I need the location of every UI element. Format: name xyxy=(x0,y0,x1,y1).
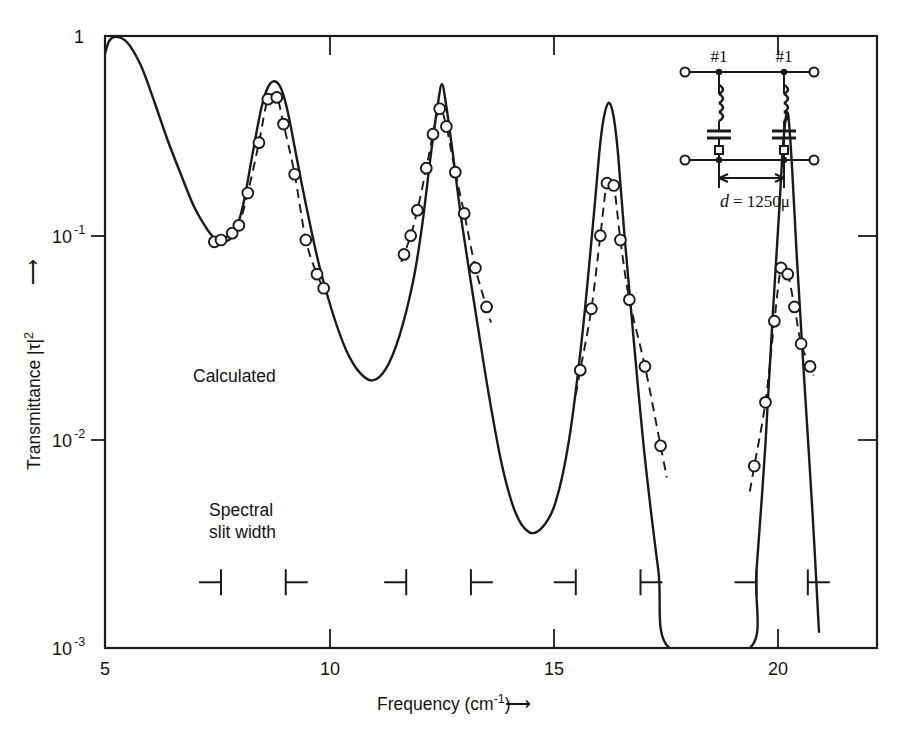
inset-label-right: #1 xyxy=(776,47,793,66)
chart-svg: 1 10 -1 10 -2 10 -3 5 10 15 20 Frequency… xyxy=(0,0,903,729)
inset-dimension-arrow-icon xyxy=(719,163,784,188)
data-point-marker xyxy=(242,188,253,199)
x-tick-label-2: 10 xyxy=(320,659,340,679)
x-tick-label-4: 20 xyxy=(768,659,788,679)
inset-node-bottom-1 xyxy=(716,157,722,163)
inset-terminal-bottom-left xyxy=(681,156,690,165)
spectral-slit-label-line1: Spectral xyxy=(209,500,273,520)
right-tick-marks xyxy=(858,236,877,440)
data-point-marker xyxy=(796,338,807,349)
inset-circuit-diagram: #1 #1 d = 1250μ xyxy=(681,47,819,211)
bottom-tick-marks xyxy=(330,629,778,648)
slit-width-marker xyxy=(735,569,757,595)
y-tick-label-1: 1 xyxy=(74,27,84,47)
x-axis-title-exp: -1 xyxy=(494,692,505,706)
y-tick-labels: 1 10 -1 10 -2 10 -3 xyxy=(52,27,85,659)
inset-terminal-top-left xyxy=(681,68,690,77)
y-axis-arrow-icon: ⟶ xyxy=(23,259,43,285)
data-point-marker xyxy=(434,103,445,114)
x-axis-arrow-icon: ⟶ xyxy=(505,694,531,714)
data-point-marker xyxy=(470,262,481,273)
data-point-marker xyxy=(405,230,416,241)
y-tick-label-3: 10 xyxy=(52,431,72,451)
data-point-marker xyxy=(441,121,452,132)
data-point-marker xyxy=(655,440,666,451)
y-axis-title-text: Transmittance |τ| xyxy=(24,339,44,470)
x-axis-title: Frequency (cm-1) ⟶ xyxy=(377,692,531,714)
data-point-marker xyxy=(271,92,282,103)
figure-container: 1 10 -1 10 -2 10 -3 5 10 15 20 Frequency… xyxy=(0,0,903,729)
data-point-marker xyxy=(640,361,651,372)
y-tick-label-2: 10 xyxy=(52,227,72,247)
y-tick-label-4: 10 xyxy=(52,639,72,659)
data-point-marker xyxy=(615,235,626,246)
data-point-marker xyxy=(450,167,461,178)
inset-dimension-d: d xyxy=(720,191,730,211)
data-point-marker xyxy=(595,230,606,241)
y-axis-title: Transmittance |τ|2 ⟶ xyxy=(22,259,44,470)
data-point-marker xyxy=(459,208,470,219)
data-point-marker xyxy=(805,361,816,372)
data-point-marker xyxy=(760,397,771,408)
y-tick-exp-2: -1 xyxy=(74,223,85,237)
inset-dimension-value: = 1250μ xyxy=(733,192,790,211)
data-point-marker xyxy=(216,235,227,246)
data-point-marker xyxy=(481,301,492,312)
inset-terminal-top-right xyxy=(810,68,819,77)
x-tick-labels: 5 10 15 20 xyxy=(100,659,788,679)
data-point-marker xyxy=(789,301,800,312)
inset-terminal-bottom-right xyxy=(810,156,819,165)
data-point-marker xyxy=(254,137,265,148)
inset-square-node-2 xyxy=(780,146,788,154)
spectral-slit-label-line2: slit width xyxy=(209,522,276,542)
measured-data-points xyxy=(209,92,816,471)
data-point-marker xyxy=(318,283,329,294)
data-point-marker xyxy=(300,235,311,246)
slit-width-marker xyxy=(199,569,221,595)
data-point-marker xyxy=(278,119,289,130)
x-tick-label-3: 15 xyxy=(544,659,564,679)
x-tick-label-1: 5 xyxy=(100,659,110,679)
data-point-marker xyxy=(412,205,423,216)
inset-branch-1 xyxy=(707,69,731,163)
slit-width-marker xyxy=(471,569,493,595)
data-point-marker xyxy=(421,163,432,174)
data-point-marker xyxy=(575,365,586,376)
calculated-label: Calculated xyxy=(193,366,276,386)
data-point-marker xyxy=(782,269,793,280)
y-tick-exp-4: -3 xyxy=(74,635,85,649)
slit-width-marker xyxy=(384,569,406,595)
x-axis-title-text: Frequency (cm xyxy=(377,694,494,714)
data-point-marker xyxy=(289,169,300,180)
data-point-marker xyxy=(749,461,760,472)
data-point-marker xyxy=(586,303,597,314)
slit-width-marker xyxy=(554,569,576,595)
data-point-marker xyxy=(608,180,619,191)
svg-text:Frequency (cm-1): Frequency (cm-1) xyxy=(377,692,511,714)
data-point-marker xyxy=(428,129,439,140)
slit-width-marker xyxy=(286,569,308,595)
y-axis-title-exp: 2 xyxy=(22,332,36,339)
measured-curve-segment xyxy=(576,178,667,478)
plot-frame xyxy=(105,36,877,648)
data-point-marker xyxy=(399,249,410,260)
inset-branch-2 xyxy=(772,69,796,163)
data-point-marker xyxy=(233,220,244,231)
y-tick-exp-3: -2 xyxy=(74,427,85,441)
inset-node-bottom-2 xyxy=(781,157,787,163)
left-tick-marks xyxy=(91,236,105,440)
svg-text:Transmittance |τ|2: Transmittance |τ|2 xyxy=(22,332,44,470)
spectral-slit-width-markers xyxy=(199,569,830,595)
data-point-marker xyxy=(624,294,635,305)
data-point-marker xyxy=(312,269,323,280)
data-point-marker xyxy=(769,316,780,327)
inset-label-left: #1 xyxy=(711,47,728,66)
slit-width-marker xyxy=(808,569,830,595)
inset-square-node-1 xyxy=(715,146,723,154)
measured-curve-segment xyxy=(212,94,327,294)
